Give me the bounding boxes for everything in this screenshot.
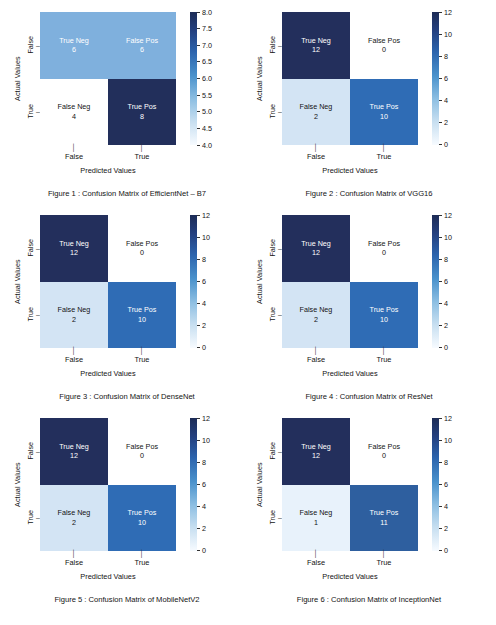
x-axis-label: Predicted Values (40, 166, 176, 175)
matrix-cell-value: 11 (380, 518, 387, 528)
colorbar-tick-label: 12 (202, 414, 210, 423)
matrix-cell: False Neg1 (282, 485, 350, 552)
matrix-cell-value: 10 (138, 518, 146, 528)
tick-mark-icon (197, 45, 200, 46)
colorbar: 121086420 (432, 12, 452, 145)
matrix-cell-value: 2 (72, 315, 76, 325)
figure-sheet: Actual ValuesFalse–True–True Neg6False P… (0, 0, 496, 625)
figure-6: Actual ValuesFalse–True–True Neg12False … (248, 418, 490, 621)
colorbar-ticks: 121086420 (439, 418, 452, 551)
tick-mark-icon (439, 506, 442, 507)
colorbar-ticks: 121086420 (439, 215, 452, 348)
tick-mark-icon (439, 418, 442, 419)
matrix-cell: False Pos0 (350, 12, 418, 79)
colorbar-tick-label: 7.0 (202, 41, 212, 50)
colorbar-tick-label: 10 (444, 233, 452, 242)
colorbar-tick-label: 6.0 (202, 74, 212, 83)
matrix-cell-value: 10 (138, 315, 146, 325)
tick-mark-icon (197, 237, 200, 238)
colorbar-tick-label: 4.0 (202, 141, 212, 150)
tick-mark-icon (439, 484, 442, 485)
matrix-cell: True Neg12 (282, 12, 350, 79)
matrix-cell-value: 0 (382, 45, 386, 55)
figure-caption: Figure 5 : Confusion Matrix of MobileNet… (6, 595, 248, 604)
colorbar-ticks: 121086420 (197, 215, 210, 348)
matrix-cell-value: 4 (72, 112, 76, 122)
confusion-matrix-grid: True Neg6False Pos6False Neg4True Pos8 (40, 12, 176, 145)
matrix-cell-value: 0 (382, 451, 386, 461)
colorbar-tick-label: 0 (444, 546, 448, 555)
figure-row-1: Actual ValuesFalse–True–True Neg6False P… (6, 12, 490, 215)
matrix-cell-label: False Neg (58, 508, 91, 518)
x-axis-tick-label: False (307, 152, 325, 161)
matrix-cell: False Neg4 (40, 79, 108, 146)
colorbar-tick-label: 4.5 (202, 124, 212, 133)
matrix-cell-label: False Neg (300, 508, 333, 518)
colorbar-tick-label: 10 (444, 30, 452, 39)
confusion-matrix-plot: Actual ValuesFalse–True–True Neg12False … (11, 418, 243, 586)
x-axis-tick: │True (350, 146, 418, 161)
x-axis-label: Predicted Values (282, 166, 418, 175)
tick-mark-icon (439, 462, 442, 463)
confusion-matrix-plot: Actual ValuesFalse–True–True Neg12False … (253, 418, 485, 586)
colorbar-tick-label: 6 (202, 277, 206, 286)
matrix-column: True Neg12False Pos0False Neg2True Pos10… (40, 215, 176, 383)
tick-mark-icon (197, 462, 200, 463)
colorbar-tick-label: 2 (202, 321, 206, 330)
matrix-cell-value: 8 (140, 112, 144, 122)
figure-caption: Figure 4 : Confusion Matrix of ResNet (248, 392, 490, 401)
x-axis-tick-label: False (65, 152, 83, 161)
tick-mark-icon (197, 550, 200, 551)
y-axis-tick: True– (266, 79, 282, 146)
confusion-matrix-plot: Actual ValuesFalse–True–True Neg12False … (11, 215, 243, 383)
y-axis-tick-label: True (26, 104, 35, 119)
colorbar-gradient (432, 215, 439, 348)
matrix-cell: False Neg2 (282, 282, 350, 349)
x-axis-tick-label: False (307, 558, 325, 567)
figure-1: Actual ValuesFalse–True–True Neg6False P… (6, 12, 248, 215)
figure-caption: Figure 2 : Confusion Matrix of VGG16 (248, 189, 490, 198)
y-axis-tick-label: False (26, 442, 35, 460)
y-axis-tick-label: True (268, 510, 277, 525)
y-axis-tick: True– (24, 282, 40, 349)
x-axis-tick-label: True (377, 558, 392, 567)
y-axis-ticks: False–True– (266, 12, 282, 145)
y-axis-tick: False– (266, 418, 282, 485)
colorbar-tick-label: 6 (444, 480, 448, 489)
x-axis-tick: │True (108, 146, 176, 161)
matrix-column: True Neg6False Pos6False Neg4True Pos8│F… (40, 12, 176, 180)
tick-mark-icon (197, 78, 200, 79)
tick-mark-icon (197, 28, 200, 29)
tick-mark-icon (197, 95, 200, 96)
x-axis-tick: │False (282, 146, 350, 161)
colorbar-tick-label: 7.5 (202, 24, 212, 33)
matrix-cell-value: 10 (380, 315, 388, 325)
matrix-cell-value: 2 (314, 315, 318, 325)
y-axis-tick: False– (266, 12, 282, 79)
figure-caption: Figure 3 : Confusion Matrix of DenseNet (6, 392, 248, 401)
x-axis-label: Predicted Values (282, 369, 418, 378)
colorbar-gradient (432, 12, 439, 145)
colorbar-tick-label: 8 (444, 255, 448, 264)
confusion-matrix-plot: Actual ValuesFalse–True–True Neg12False … (253, 215, 485, 383)
colorbar-tick-label: 12 (444, 8, 452, 17)
matrix-cell: True Pos8 (108, 79, 176, 146)
tick-mark-icon (439, 34, 442, 35)
colorbar-tick-label: 12 (444, 414, 452, 423)
matrix-cell: True Pos10 (350, 282, 418, 349)
colorbar-tick-label: 8 (202, 255, 206, 264)
x-axis-ticks: │False│True (282, 552, 418, 567)
matrix-cell-label: True Neg (59, 36, 89, 46)
colorbar-tick-label: 8 (444, 52, 448, 61)
y-axis-tick-label: False (26, 239, 35, 257)
confusion-matrix-grid: True Neg12False Pos0False Neg2True Pos10 (282, 12, 418, 145)
colorbar-gradient (190, 12, 197, 145)
matrix-cell: False Neg2 (282, 79, 350, 146)
matrix-cell-label: True Pos (128, 102, 157, 112)
matrix-cell-value: 1 (314, 518, 318, 528)
x-axis-ticks: │False│True (40, 552, 176, 567)
colorbar-tick-label: 5.0 (202, 107, 212, 116)
colorbar: 121086420 (190, 215, 210, 348)
tick-mark-icon (197, 303, 200, 304)
x-axis-tick: │True (108, 552, 176, 567)
